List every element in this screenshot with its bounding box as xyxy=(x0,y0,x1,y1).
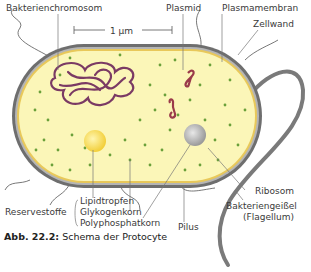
pilus-icon xyxy=(5,180,30,190)
label-flagellum: Bakteriengeißel xyxy=(226,201,297,211)
polyphosphate-granule xyxy=(184,124,206,146)
label-cell-wall: Zellwand xyxy=(253,19,294,29)
label-pilus: Pilus xyxy=(178,222,199,232)
lipid-droplet xyxy=(84,130,106,152)
figure-caption: Abb. 22.2: Schema der Protocyte xyxy=(4,231,167,242)
figure-title: Schema der Protocyte xyxy=(62,231,167,242)
label-plasma-membrane: Plasmamembran xyxy=(222,3,298,13)
label-ribosome: Ribosom xyxy=(255,186,294,196)
label-flagellum-latin: (Flagellum) xyxy=(243,212,294,222)
label-chromosome: Bakterienchromosom xyxy=(6,3,102,13)
label-plasmid: Plasmid xyxy=(166,3,201,13)
figure-number: Abb. 22.2: xyxy=(4,231,59,242)
label-polyphosphate-granule: Polyphosphatkorn xyxy=(80,218,160,228)
pilus-icon xyxy=(11,10,55,60)
pilus-icon xyxy=(50,183,70,205)
pilus-icon xyxy=(245,40,278,60)
label-reserve-substances: Reservestoffe xyxy=(5,207,67,217)
pilus-icon xyxy=(196,10,201,50)
label-lipid-droplet: Lipidtropfen xyxy=(80,196,134,206)
protocyte-diagram: Bakterienchromosom 1 µm Plasmid Plasmame… xyxy=(0,0,311,272)
label-glycogen-granule: Glykogenkorn xyxy=(80,207,142,217)
scale-bar-label: 1 µm xyxy=(110,26,133,36)
